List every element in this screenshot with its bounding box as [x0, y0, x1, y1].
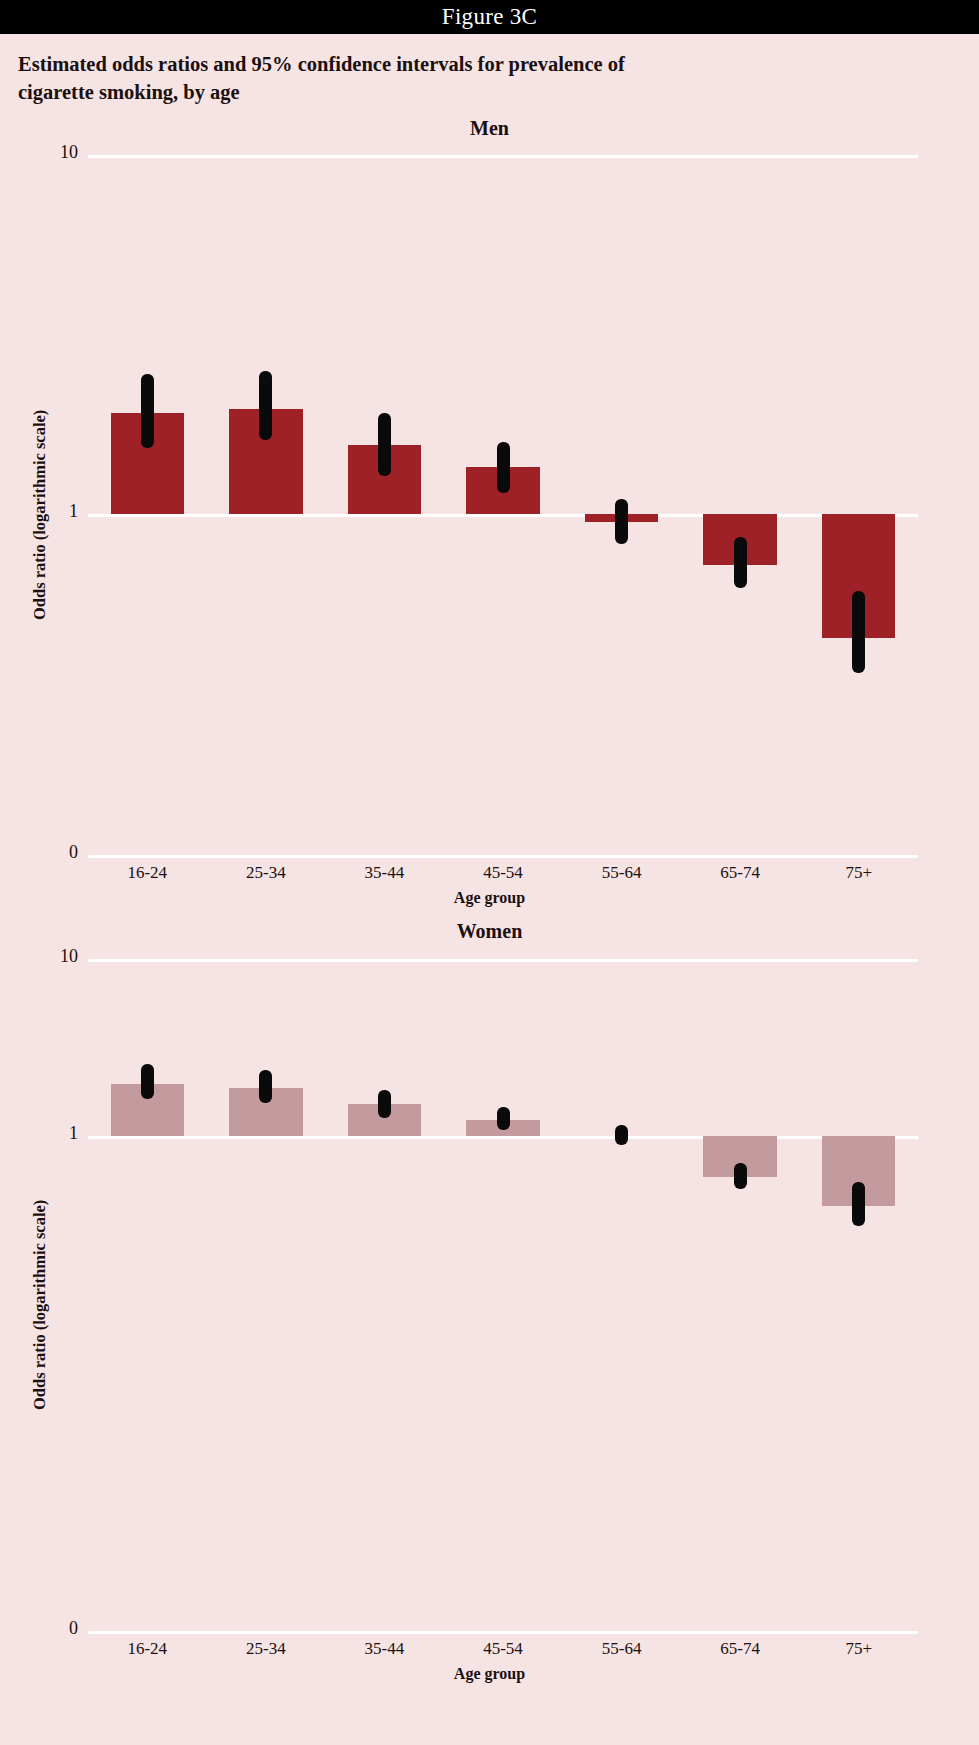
x-tick-label-65-74-women: 65-74 — [680, 1639, 800, 1659]
ci-bar-75+-men — [852, 591, 865, 673]
figure-banner: Figure 3C — [0, 0, 979, 34]
plot-area-men: 1010Odds ratio (logarithmic scale)16-242… — [0, 140, 979, 920]
axis-baseline-men — [88, 855, 918, 858]
chart-men: 1010Odds ratio (logarithmic scale)16-242… — [0, 140, 979, 920]
ci-bar-16-24-men — [141, 374, 154, 448]
ci-bar-45-54-women — [497, 1107, 510, 1130]
x-tick-label-16-24-women: 16-24 — [87, 1639, 207, 1659]
ci-bar-75+-women — [852, 1182, 865, 1226]
ci-bar-25-34-men — [259, 371, 272, 441]
x-tick-label-25-34-women: 25-34 — [206, 1639, 326, 1659]
ci-bar-55-64-women — [615, 1125, 628, 1146]
y-tick-label-10-women: 10 — [18, 946, 78, 967]
ci-bar-35-44-men — [378, 413, 391, 476]
x-tick-label-65-74-men: 65-74 — [680, 863, 800, 883]
ci-bar-25-34-women — [259, 1070, 272, 1103]
y-tick-label-0-women: 0 — [18, 1618, 78, 1639]
panel-heading-women: Women — [0, 920, 979, 943]
x-axis-title-men: Age group — [0, 889, 979, 907]
ci-bar-45-54-men — [497, 442, 510, 493]
y-tick-label-1-women: 1 — [18, 1123, 78, 1144]
y-axis-title-women: Odds ratio (logarithmic scale) — [30, 1199, 50, 1409]
x-tick-label-35-44-men: 35-44 — [324, 863, 444, 883]
x-tick-label-35-44-women: 35-44 — [324, 1639, 444, 1659]
ci-bar-55-64-men — [615, 499, 628, 545]
x-tick-label-16-24-men: 16-24 — [87, 863, 207, 883]
gridline-10-women — [88, 959, 918, 962]
gridline-1-women — [88, 1136, 918, 1139]
x-tick-label-55-64-men: 55-64 — [562, 863, 682, 883]
x-tick-label-45-54-men: 45-54 — [443, 863, 563, 883]
ci-bar-16-24-women — [141, 1064, 154, 1100]
y-tick-label-10-men: 10 — [18, 142, 78, 163]
y-axis-title-men: Odds ratio (logarithmic scale) — [30, 409, 50, 619]
page-title: Estimated odds ratios and 95% confidence… — [18, 50, 638, 107]
x-tick-label-55-64-women: 55-64 — [562, 1639, 682, 1659]
x-tick-label-75+-women: 75+ — [799, 1639, 919, 1659]
ci-bar-35-44-women — [378, 1090, 391, 1118]
gridline-10-men — [88, 155, 918, 158]
y-tick-label-0-men: 0 — [18, 842, 78, 863]
plot-area-women: 1010Odds ratio (logarithmic scale)16-242… — [0, 943, 979, 1703]
gridline-1-men — [88, 514, 918, 517]
x-tick-label-25-34-men: 25-34 — [206, 863, 326, 883]
ci-bar-65-74-women — [734, 1163, 747, 1189]
x-tick-label-75+-men: 75+ — [799, 863, 919, 883]
figure-label: Figure 3C — [442, 4, 537, 30]
panel-heading-men: Men — [0, 117, 979, 140]
axis-baseline-women — [88, 1631, 918, 1634]
chart-women: 1010Odds ratio (logarithmic scale)16-242… — [0, 943, 979, 1703]
ci-bar-65-74-men — [734, 537, 747, 588]
x-tick-label-45-54-women: 45-54 — [443, 1639, 563, 1659]
x-axis-title-women: Age group — [0, 1665, 979, 1683]
